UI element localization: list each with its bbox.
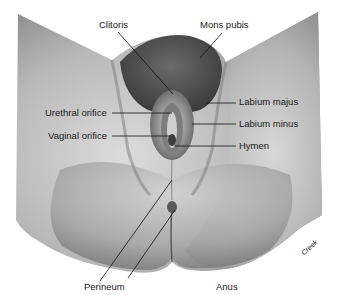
label-vaginal-orifice: Vaginal orifice — [48, 131, 107, 141]
label-labium-majus: Labium majus — [239, 97, 298, 107]
anatomy-figure: Clitoris Mons pubis Labium majus Labium … — [0, 0, 337, 295]
label-mons-pubis: Mons pubis — [200, 20, 249, 30]
illustration — [0, 0, 337, 295]
anus — [167, 201, 177, 213]
label-perineum: Perineum — [84, 282, 125, 292]
label-urethral-orifice: Urethral orifice — [45, 108, 107, 118]
label-labium-minus: Labium minus — [239, 119, 298, 129]
label-clitoris: Clitoris — [99, 20, 128, 30]
label-anus: Anus — [216, 282, 238, 292]
label-hymen: Hymen — [239, 141, 269, 151]
